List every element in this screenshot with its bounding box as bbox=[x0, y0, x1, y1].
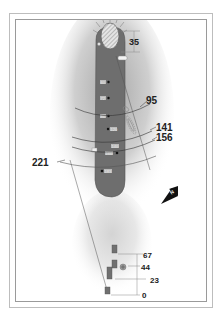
tee-distance-67: 67 bbox=[143, 251, 152, 260]
svg-text:86: 86 bbox=[101, 114, 106, 119]
hole-diagram: 35 60 72 86 120 140 160 183 bbox=[0, 0, 222, 318]
green bbox=[101, 23, 119, 49]
distance-156: 156 bbox=[156, 132, 173, 143]
green-side-bunker bbox=[118, 56, 127, 60]
green-depth-label: 35 bbox=[129, 37, 139, 47]
svg-text:140: 140 bbox=[112, 144, 119, 149]
north-arrow-icon: N bbox=[161, 186, 178, 204]
tee-distance-44: 44 bbox=[141, 263, 150, 272]
svg-text:183: 183 bbox=[105, 169, 112, 174]
distance-95: 95 bbox=[146, 95, 158, 106]
distance-221: 221 bbox=[32, 157, 49, 168]
tee-distance-23: 23 bbox=[150, 276, 159, 285]
svg-text:60: 60 bbox=[101, 80, 106, 85]
svg-text:160: 160 bbox=[106, 151, 113, 156]
svg-text:72: 72 bbox=[101, 96, 106, 101]
svg-text:120: 120 bbox=[111, 127, 118, 132]
tee-distance-0: 0 bbox=[142, 291, 147, 300]
